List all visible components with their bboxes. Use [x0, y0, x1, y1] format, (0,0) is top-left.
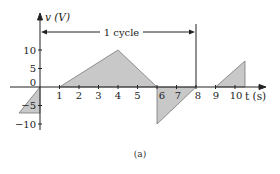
y-axis-label: v (V)	[45, 11, 70, 23]
cycle-label: 1 cycle	[104, 27, 140, 38]
y-tick-label: 10	[23, 45, 36, 56]
x-tick-label: 9	[213, 90, 219, 101]
y-tick-label: −10	[15, 119, 36, 130]
x-tick-label: 7	[175, 90, 181, 101]
y-tick-label: 0	[30, 77, 36, 88]
arrow-right-icon	[189, 30, 195, 35]
figure-caption: (a)	[134, 149, 146, 159]
x-tick-label: 1	[56, 90, 62, 101]
positive-segment-next	[216, 61, 246, 87]
x-tick-label: 4	[115, 90, 121, 101]
x-axis-label: t (s)	[245, 90, 266, 102]
waveform-chart: 1 2 3 4 5 6 7 8 9 10 10 5 0 −5 −10 v (V)…	[0, 0, 280, 174]
y-tick-label: −5	[21, 100, 36, 111]
y-axis-arrow-icon	[38, 13, 43, 20]
y-tick-label: 5	[30, 63, 36, 74]
x-tick-label: 2	[76, 90, 82, 101]
x-tick-label: 8	[195, 90, 201, 101]
x-tick-label: 10	[230, 90, 243, 101]
x-tick-label: 5	[134, 90, 140, 101]
x-tick-label: 3	[95, 90, 101, 101]
x-tick-labels: 1 2 3 4 5 6 7 8 9 10	[56, 90, 242, 101]
positive-triangle	[60, 50, 158, 87]
x-axis-arrow-icon	[259, 85, 266, 90]
arrow-left-icon	[41, 30, 47, 35]
x-tick-label: 6	[159, 90, 165, 101]
